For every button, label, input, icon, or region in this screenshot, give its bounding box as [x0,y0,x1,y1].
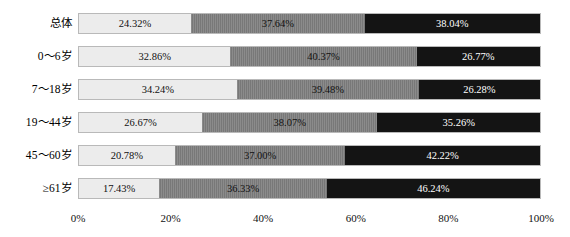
bar-segment-1: 20.78% [79,146,175,165]
stacked-bar: 24.32% 37.64% 38.04% [78,13,541,34]
chart-row: 总体 24.32% 37.64% 38.04% [0,12,570,34]
bar-segment-1: 32.86% [79,47,230,66]
stacked-bar: 32.86% 40.37% 26.77% [78,46,541,67]
category-label: ≥61岁 [0,177,72,199]
chart-row: ≥61岁 17.43% 36.33% 46.24% [0,177,570,199]
bar-segment-3: 42.22% [345,146,540,165]
stacked-bar-chart: 总体 24.32% 37.64% 38.04% 0～6岁 32.86% 40.3… [0,0,570,237]
chart-row: 45～60岁 20.78% 37.00% 42.22% [0,144,570,166]
bar-segment-2: 36.33% [159,179,326,198]
bar-segment-3: 26.77% [417,47,540,66]
category-label: 7～18岁 [0,78,72,100]
category-label: 0～6岁 [0,45,72,67]
chart-row: 7～18岁 34.24% 39.48% 26.28% [0,78,570,100]
chart-plot-area: 总体 24.32% 37.64% 38.04% 0～6岁 32.86% 40.3… [0,0,570,206]
chart-row: 0～6岁 32.86% 40.37% 26.77% [0,45,570,67]
x-axis-tick: 80% [438,212,458,224]
bar-segment-3: 35.26% [377,113,540,132]
stacked-bar: 26.67% 38.07% 35.26% [78,112,541,133]
stacked-bar: 20.78% 37.00% 42.22% [78,145,541,166]
bar-segment-2: 39.48% [237,80,419,99]
category-label: 19～44岁 [0,111,72,133]
x-axis-tick: 60% [346,212,366,224]
bar-segment-1: 24.32% [79,14,191,33]
x-axis-tick: 20% [161,212,181,224]
x-axis-tick: 0% [71,212,86,224]
x-axis: 0% 20% 40% 60% 80% 100% [78,206,541,236]
bar-segment-2: 37.64% [191,14,365,33]
x-axis-tick: 100% [528,212,554,224]
bar-segment-2: 40.37% [230,47,416,66]
bar-segment-3: 26.28% [419,80,540,99]
chart-row: 19～44岁 26.67% 38.07% 35.26% [0,111,570,133]
category-label: 总体 [0,12,72,34]
bar-segment-3: 46.24% [327,179,540,198]
bar-segment-1: 26.67% [79,113,202,132]
x-axis-tick: 40% [253,212,273,224]
stacked-bar: 17.43% 36.33% 46.24% [78,178,541,199]
bar-segment-2: 38.07% [202,113,378,132]
stacked-bar: 34.24% 39.48% 26.28% [78,79,541,100]
bar-segment-2: 37.00% [175,146,346,165]
category-label: 45～60岁 [0,144,72,166]
bar-segment-3: 38.04% [365,14,540,33]
bar-segment-1: 17.43% [79,179,159,198]
bar-segment-1: 34.24% [79,80,237,99]
